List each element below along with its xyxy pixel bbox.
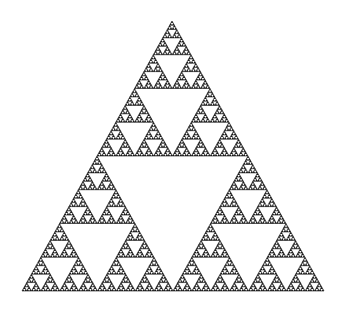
fractal-path (22, 21, 324, 291)
triangle-group (22, 21, 324, 291)
fractal-holes (23, 23, 323, 291)
sierpinski-triangle (0, 0, 343, 309)
